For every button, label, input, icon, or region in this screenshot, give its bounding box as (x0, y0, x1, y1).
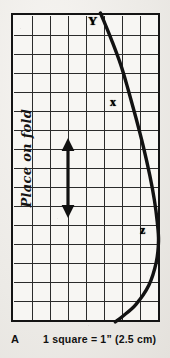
place-on-fold-note: Place on fold (19, 112, 34, 208)
grid-line-horizontal (14, 54, 158, 55)
scanned-pattern-page: Y x z Place on fold A 1 square = 1” (2.5… (0, 0, 170, 358)
grid-line-horizontal (14, 73, 158, 74)
grid-lines (14, 16, 158, 320)
point-label-y: Y (88, 14, 97, 27)
grid-line-horizontal (14, 130, 158, 131)
grid-line-horizontal (14, 168, 158, 169)
grid-line-horizontal (14, 149, 158, 150)
grid-line-horizontal (14, 92, 158, 93)
double-headed-arrow (56, 138, 80, 218)
grid-line-horizontal (14, 35, 158, 36)
grid-line-horizontal (14, 187, 158, 188)
grid-line-horizontal (14, 225, 158, 226)
grid-line-horizontal (14, 263, 158, 264)
grid-line-horizontal (14, 206, 158, 207)
grid-line-horizontal (14, 111, 158, 112)
grid-line-horizontal (14, 282, 158, 283)
figure-caption: A 1 square = 1” (2.5 cm) (0, 333, 170, 353)
point-label-x: x (110, 96, 116, 108)
grid-line-horizontal (14, 301, 158, 302)
figure-letter: A (11, 333, 19, 345)
point-label-z: z (140, 224, 145, 236)
grid-line-horizontal (14, 244, 158, 245)
scale-caption: 1 square = 1” (2.5 cm) (43, 333, 156, 345)
